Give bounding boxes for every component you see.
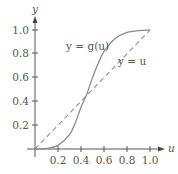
y-tick-label: 0.4 xyxy=(12,95,29,107)
x-axis-arrow-icon xyxy=(158,147,165,152)
x-tick-label: 1.0 xyxy=(142,154,159,166)
chart-canvas: y u 0.2 0.4 0.6 0.8 1.0 0.2 0.4 0.6 0.8 … xyxy=(0,0,178,174)
y-ticks: 0.2 0.4 0.6 0.8 1.0 xyxy=(12,24,38,131)
x-tick-label: 0.6 xyxy=(96,154,113,166)
y-axis-arrow-icon xyxy=(33,16,38,23)
g-curve-label: y = g(u) xyxy=(65,40,109,52)
y-tick-label: 1.0 xyxy=(12,24,29,36)
x-tick-label: 0.2 xyxy=(50,154,67,166)
x-axis-label: u xyxy=(168,142,175,154)
y-axis-label: y xyxy=(31,3,39,15)
identity-line-label: y = u xyxy=(117,55,146,67)
x-tick-label: 0.4 xyxy=(73,154,90,166)
y-tick-label: 0.8 xyxy=(12,47,29,59)
y-tick-label: 0.6 xyxy=(12,71,29,83)
y-tick-label: 0.2 xyxy=(12,119,29,131)
x-tick-label: 0.8 xyxy=(119,154,136,166)
